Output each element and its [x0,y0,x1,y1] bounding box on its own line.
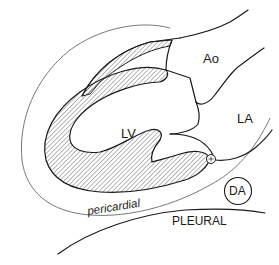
label-pericardial: pericardial [85,197,141,217]
label-aorta: Ao [203,51,219,66]
label-left-ventricle: LV [121,126,136,141]
cardiac-diagram: Ao LA LV DA pericardial PLEURAL [0,0,279,265]
aorta-outline [180,10,248,38]
la-left-wall [170,102,199,134]
label-pleural: PLEURAL [172,214,227,228]
label-descending-aorta: DA [229,184,246,198]
la-posterior-wall [215,130,272,160]
label-left-atrium: LA [237,111,253,126]
